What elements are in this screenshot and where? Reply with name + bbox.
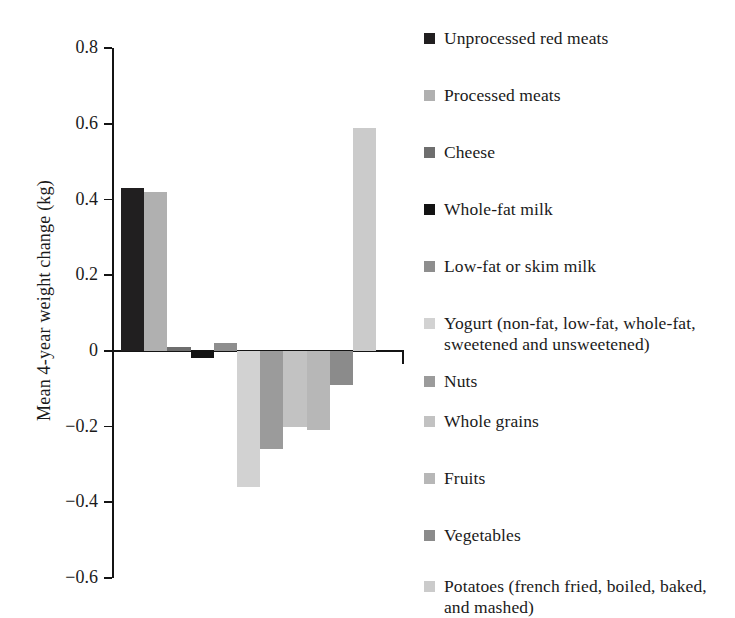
x-axis-end-cap <box>402 350 404 364</box>
legend-item-3[interactable]: Whole-fat milk <box>424 199 729 220</box>
legend-swatch-unprocessed-red-meats <box>424 33 435 44</box>
bar-2 <box>167 347 190 351</box>
legend-item-4[interactable]: Low-fat or skim milk <box>424 256 729 277</box>
y-axis-spine <box>112 48 114 578</box>
legend-swatch-potatoes <box>424 581 435 592</box>
legend-label-8: Fruits <box>444 468 485 489</box>
legend-swatch-low-fat-or-skim-milk <box>424 261 435 272</box>
y-tick-7: −0.6 <box>104 577 112 579</box>
legend-swatch-whole-grains <box>424 416 435 427</box>
legend-label-10: Potatoes (french fried, boiled, baked, a… <box>444 576 729 618</box>
legend-label-1: Processed meats <box>444 85 561 106</box>
legend-swatch-fruits <box>424 473 435 484</box>
y-tick-5: −0.2 <box>104 426 112 428</box>
legend-item-5[interactable]: Yogurt (non-fat, low-fat, whole-fat, swe… <box>424 313 729 355</box>
bar-3 <box>191 351 214 359</box>
y-tick-label-1: 0.6 <box>76 114 99 132</box>
y-tick-label-4: 0 <box>89 341 98 359</box>
y-tick-label-6: −0.4 <box>65 492 98 510</box>
y-tick-6: −0.4 <box>104 501 112 503</box>
bar-6 <box>260 351 283 449</box>
bar-5 <box>237 351 260 487</box>
chart-legend: Unprocessed red meatsProcessed meatsChee… <box>424 28 729 588</box>
legend-swatch-yogurt <box>424 318 435 329</box>
legend-item-8[interactable]: Fruits <box>424 468 729 489</box>
legend-item-6[interactable]: Nuts <box>424 371 729 392</box>
y-tick-label-2: 0.4 <box>76 189 99 207</box>
y-tick-0: 0.8 <box>104 47 112 49</box>
legend-item-2[interactable]: Cheese <box>424 142 729 163</box>
y-tick-label-7: −0.6 <box>65 568 98 586</box>
legend-label-0: Unprocessed red meats <box>444 28 608 49</box>
legend-label-6: Nuts <box>444 371 477 392</box>
bar-10 <box>353 128 376 351</box>
y-tick-3: 0.2 <box>104 274 112 276</box>
legend-swatch-vegetables <box>424 530 435 541</box>
legend-item-10[interactable]: Potatoes (french fried, boiled, baked, a… <box>424 576 729 618</box>
legend-label-4: Low-fat or skim milk <box>444 256 596 277</box>
bar-9 <box>330 351 353 385</box>
plot-area: 0.80.60.40.20−0.2−0.4−0.6 <box>112 40 402 585</box>
y-tick-1: 0.6 <box>104 123 112 125</box>
bar-7 <box>283 351 306 427</box>
y-tick-label-3: 0.2 <box>76 265 99 283</box>
legend-swatch-processed-meats <box>424 90 435 101</box>
legend-item-7[interactable]: Whole grains <box>424 411 729 432</box>
legend-item-1[interactable]: Processed meats <box>424 85 729 106</box>
y-tick-label-5: −0.2 <box>65 416 98 434</box>
legend-label-7: Whole grains <box>444 411 539 432</box>
legend-item-0[interactable]: Unprocessed red meats <box>424 28 729 49</box>
bar-8 <box>307 351 330 431</box>
y-tick-4: 0 <box>104 350 112 352</box>
legend-swatch-nuts <box>424 376 435 387</box>
legend-label-2: Cheese <box>444 142 495 163</box>
legend-label-5: Yogurt (non-fat, low-fat, whole-fat, swe… <box>444 313 729 355</box>
legend-label-9: Vegetables <box>444 525 521 546</box>
y-tick-2: 0.4 <box>104 199 112 201</box>
bar-1 <box>144 192 167 351</box>
legend-swatch-whole-fat-milk <box>424 204 435 215</box>
bar-4 <box>214 343 237 351</box>
legend-item-9[interactable]: Vegetables <box>424 525 729 546</box>
bar-0 <box>121 188 144 351</box>
y-axis-label: Mean 4-year weight change (kg) <box>34 91 55 511</box>
legend-label-3: Whole-fat milk <box>444 199 553 220</box>
legend-swatch-cheese <box>424 147 435 158</box>
y-tick-label-0: 0.8 <box>76 38 99 56</box>
